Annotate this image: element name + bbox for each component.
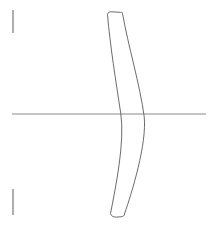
lens-diagram-canvas [0,0,212,225]
diagram-background [0,0,212,225]
lens-diagram-svg [0,0,212,225]
